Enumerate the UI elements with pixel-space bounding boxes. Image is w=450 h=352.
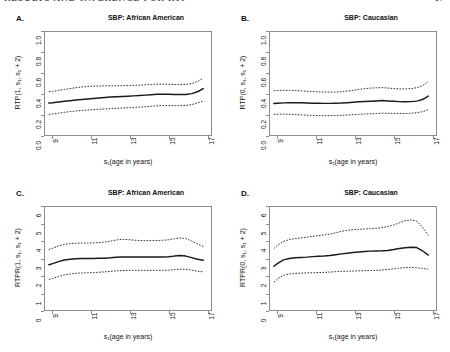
- plot-area-a: [44, 31, 212, 136]
- y-tick-label: 0.2: [260, 115, 267, 135]
- panel-title-a: SBP: African American: [56, 14, 236, 21]
- y-tick-label: 0.2: [35, 115, 42, 135]
- y-tick-label: 5: [260, 223, 267, 243]
- y-tick-label: 0: [260, 311, 267, 331]
- y-axis-label-c: RTPR(1, s₁, s₁ + 2): [14, 190, 21, 325]
- x-tick-label: 15: [394, 136, 401, 146]
- x-tick-label: 13: [355, 136, 362, 146]
- x-tick-label: 9: [277, 311, 284, 321]
- x-tick-label: 9: [277, 136, 284, 146]
- curve-upper-confidence-band: [274, 81, 428, 92]
- y-axis-label-b: RTP(0, s₁, s₁ + 2): [239, 15, 246, 150]
- y-tick-label: 6: [260, 206, 267, 226]
- curve-estimate: [49, 256, 203, 265]
- y-axis-label-a: RTP(1, s₁, s₁ + 2): [14, 15, 21, 150]
- x-tick-label: 15: [169, 311, 176, 321]
- x-tick-label: 11: [316, 136, 323, 146]
- curve-estimate: [274, 96, 428, 104]
- y-tick-label: 2: [260, 276, 267, 296]
- plot-area-d: [269, 206, 437, 311]
- y-axis-label-d: RTPR(0, s₁, s₁ + 2): [239, 190, 246, 325]
- x-tick-label: 13: [130, 136, 137, 146]
- y-tick-label: 0.8: [35, 52, 42, 72]
- y-tick-label: 0.0: [35, 136, 42, 156]
- y-tick-label: 0.6: [35, 73, 42, 93]
- y-tick-label: 0: [35, 311, 42, 331]
- x-tick-label: 13: [130, 311, 137, 321]
- y-tick-label: 4: [260, 241, 267, 261]
- curve-estimate: [274, 247, 428, 266]
- x-tick-label: 9: [52, 311, 59, 321]
- panel-title-d: SBP: Caucasian: [281, 189, 450, 196]
- x-tick-label: 15: [394, 311, 401, 321]
- panel-title-c: SBP: African American: [56, 189, 236, 196]
- x-axis-label-b: s₁(age in years): [269, 158, 437, 165]
- x-tick-label: 9: [52, 136, 59, 146]
- y-tick-label: 1.0: [35, 31, 42, 51]
- curve-upper-confidence-band: [274, 220, 428, 249]
- curve-upper-confidence-band: [49, 78, 203, 92]
- y-tick-label: 0.0: [260, 136, 267, 156]
- y-tick-label: 6: [35, 206, 42, 226]
- curve-upper-confidence-band: [49, 238, 203, 250]
- x-tick-label: 17: [433, 311, 440, 321]
- y-tick-label: 2: [35, 276, 42, 296]
- y-tick-label: 0.8: [260, 52, 267, 72]
- x-tick-label: 13: [355, 311, 362, 321]
- curve-lower-confidence-band: [49, 269, 203, 279]
- curve-lower-confidence-band: [274, 110, 428, 116]
- x-tick-label: 15: [169, 136, 176, 146]
- x-tick-label: 11: [91, 136, 98, 146]
- curve-lower-confidence-band: [49, 101, 203, 115]
- x-axis-label-c: s₁(age in years): [44, 333, 212, 340]
- y-tick-label: 4: [35, 241, 42, 261]
- y-tick-label: 1: [260, 293, 267, 313]
- x-tick-label: 17: [208, 311, 215, 321]
- running-header: RESULTS AND INFERENCE FOR RTP 17: [0, 0, 450, 6]
- y-tick-label: 0.6: [260, 73, 267, 93]
- plot-area-c: [44, 206, 212, 311]
- x-tick-label: 17: [208, 136, 215, 146]
- y-tick-label: 1.0: [260, 31, 267, 51]
- x-axis-label-d: s₁(age in years): [269, 333, 437, 340]
- y-tick-label: 1: [35, 293, 42, 313]
- x-tick-label: 17: [433, 136, 440, 146]
- panel-title-b: SBP: Caucasian: [281, 14, 450, 21]
- curve-lower-confidence-band: [274, 267, 428, 282]
- curve-estimate: [49, 89, 203, 103]
- y-tick-label: 0.4: [260, 94, 267, 114]
- y-tick-label: 3: [35, 258, 42, 278]
- y-tick-label: 5: [35, 223, 42, 243]
- x-axis-label-a: s₁(age in years): [44, 158, 212, 165]
- x-tick-label: 11: [91, 311, 98, 321]
- x-tick-label: 11: [316, 311, 323, 321]
- plot-area-b: [269, 31, 437, 136]
- y-tick-label: 0.4: [35, 94, 42, 114]
- running-header-page-number: 17: [435, 0, 445, 3]
- y-tick-label: 3: [260, 258, 267, 278]
- running-header-title: RESULTS AND INFERENCE FOR RTP: [4, 0, 188, 3]
